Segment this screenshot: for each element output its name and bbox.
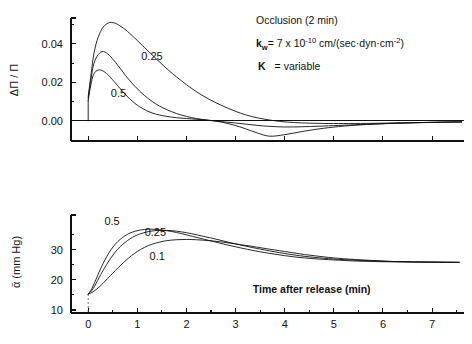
kw-units-close: ) — [400, 37, 404, 49]
k-value: = variable — [275, 60, 321, 72]
annotation-block: Occlusion (2 min) kw= 7 x 10-10 cm/(sec·… — [256, 14, 404, 72]
x-axis-title: Time after release (min) — [253, 283, 371, 295]
x-tick-label: 6 — [380, 318, 386, 330]
x-tick-label: 3 — [233, 318, 239, 330]
x-tick-label: 4 — [282, 318, 288, 330]
bottom-chart-panel: 102030012345670.50.250.1ᾱ (mm Hg)Time a… — [10, 215, 464, 330]
y-tick-label: 0.00 — [42, 115, 63, 127]
y-axis-title: ΔΠ / Π — [8, 64, 20, 96]
y-tick-label: 0.04 — [42, 38, 63, 50]
curve-label: 0.25 — [141, 50, 162, 62]
x-tick-label: 0 — [85, 318, 91, 330]
kw-equals: = 7 x 10 — [268, 37, 306, 49]
x-tick-label: 7 — [429, 318, 435, 330]
kw-units: cm/(sec·dyn·cm — [316, 37, 394, 49]
y-axis-title: ᾱ (mm Hg) — [10, 236, 22, 288]
y-tick-label: 10 — [51, 304, 63, 316]
y-tick-label: 30 — [51, 244, 63, 256]
x-tick-label: 1 — [134, 318, 140, 330]
annotation-k: K= variable — [258, 60, 321, 72]
x-tick-label: 5 — [331, 318, 337, 330]
annotation-kw: kw= 7 x 10-10 cm/(sec·dyn·cm-2) — [256, 36, 404, 52]
curve-label: 0.5 — [104, 215, 119, 227]
curve-label: 0.1 — [150, 250, 165, 262]
kw-units-exponent: -2 — [394, 36, 401, 45]
y-tick-label: 20 — [51, 274, 63, 286]
curve-label: 0.5 — [111, 87, 126, 99]
k-symbol: K — [258, 60, 266, 72]
y-tick-label: 0.02 — [42, 76, 63, 88]
x-tick-label: 2 — [183, 318, 189, 330]
figure-root: 0.000.020.040.250.5ΔΠ / Π 10203001234567… — [0, 0, 472, 344]
kw-exponent: -10 — [305, 36, 316, 45]
curve-label: 0.25 — [145, 226, 166, 238]
annotation-occlusion: Occlusion (2 min) — [256, 14, 338, 26]
